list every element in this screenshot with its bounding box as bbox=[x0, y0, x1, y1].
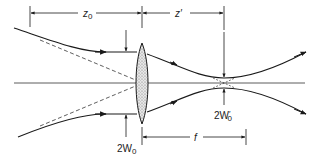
lower-exit-arrow bbox=[294, 109, 306, 114]
lower-dashed-asymptote bbox=[40, 85, 138, 126]
w0-label: 2W0 bbox=[117, 143, 137, 156]
w0prime-label: 2W′0 bbox=[214, 109, 233, 123]
thin-lens bbox=[136, 43, 148, 124]
top-dimension: z0 z′ bbox=[30, 6, 224, 30]
upper-output-ray bbox=[147, 52, 306, 78]
lower-input-ray bbox=[18, 114, 137, 137]
upper-exit-arrow bbox=[294, 52, 306, 57]
gaussian-beam-diagram: z0 z′ 2W0 2W′0 bbox=[0, 0, 320, 161]
z0-label: z0 bbox=[82, 8, 93, 21]
upper-input-ray bbox=[14, 28, 137, 52]
input-beam bbox=[14, 28, 137, 137]
input-waist-marker: 2W0 bbox=[117, 30, 137, 156]
f-label: f bbox=[194, 132, 198, 143]
upper-dashed-asymptote bbox=[40, 40, 138, 81]
focal-length-dimension: f bbox=[142, 127, 246, 145]
zprime-label: z′ bbox=[174, 8, 183, 19]
